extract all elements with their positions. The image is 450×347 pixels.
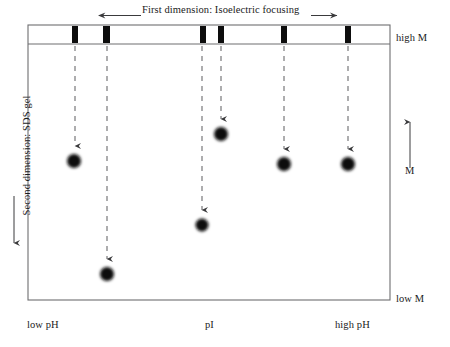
migration-track-group xyxy=(75,46,348,259)
gel-frame xyxy=(28,25,390,300)
first-dimension-title: First dimension: Isoelectric focusing xyxy=(142,4,299,15)
ief-band-2 xyxy=(103,26,110,43)
second-dimension-title: Second dimension: SDS gel xyxy=(21,86,32,226)
low-ph-label: low pH xyxy=(27,319,59,330)
ief-band-6 xyxy=(345,26,351,43)
ief-band-5 xyxy=(281,26,287,43)
protein-spot-3 xyxy=(196,219,209,232)
ief-band-group xyxy=(72,26,351,43)
ief-band-4 xyxy=(218,26,224,43)
protein-spot-6 xyxy=(341,157,355,171)
protein-spot-5 xyxy=(277,157,291,171)
protein-spot-1 xyxy=(67,154,81,168)
mass-axis-label: M xyxy=(405,165,414,176)
high-mass-label: high M xyxy=(396,32,427,43)
low-mass-label: low M xyxy=(396,293,424,304)
isoelectric-point-label: pI xyxy=(205,319,214,330)
figure-canvas: First dimension: Isoelectric focusing Se… xyxy=(0,0,450,347)
gel-diagram xyxy=(0,0,450,347)
ief-band-1 xyxy=(72,26,78,43)
protein-spot-2 xyxy=(100,267,114,281)
ief-band-3 xyxy=(200,26,206,43)
protein-spot-4 xyxy=(214,127,228,141)
high-ph-label: high pH xyxy=(335,319,370,330)
protein-spot-group xyxy=(67,127,355,281)
